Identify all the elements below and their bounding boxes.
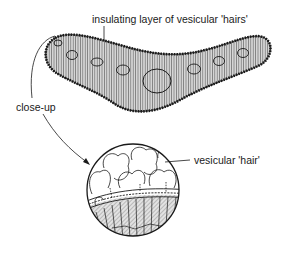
closeup-circle — [80, 140, 190, 240]
arrowhead-icon — [83, 158, 90, 165]
leaf-cross-section — [46, 35, 271, 112]
label-close-up: close-up — [16, 101, 56, 113]
label-vesicular-hair: vesicular 'hair' — [194, 154, 260, 166]
label-insulating-layer: insulating layer of vesicular 'hairs' — [92, 13, 248, 25]
diagram-canvas — [0, 0, 285, 253]
leaf-outline — [46, 35, 271, 112]
closeup-curve-lower — [43, 114, 88, 163]
